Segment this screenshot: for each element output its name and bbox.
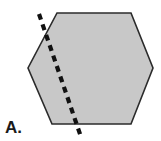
- hexagon-figure-svg: [0, 0, 161, 141]
- hexagon-shape: [28, 13, 153, 124]
- figure-label: A.: [5, 118, 22, 138]
- figure-container: A.: [0, 0, 161, 141]
